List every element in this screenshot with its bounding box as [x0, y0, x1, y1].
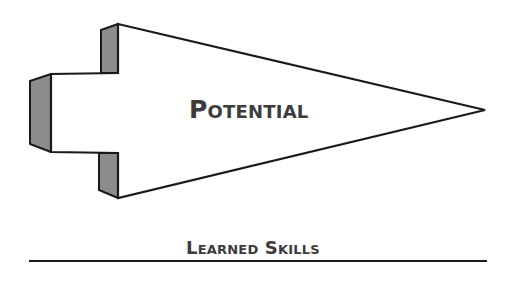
arrow-back-panel-shade [30, 74, 51, 152]
learned-skills-label: Learned Skills [186, 238, 320, 258]
potential-label: Potential [189, 96, 308, 124]
arrow-top-fin-shade [101, 24, 118, 73]
arrow-bottom-fin-shade [99, 153, 118, 198]
